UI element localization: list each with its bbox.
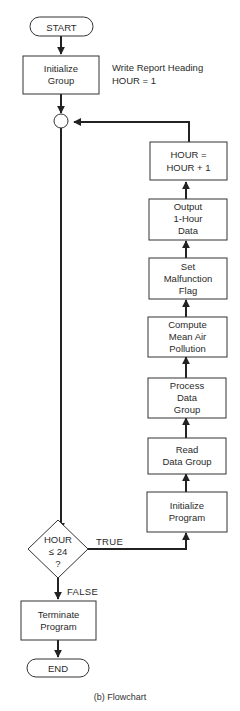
terminate-line-2: Program: [40, 621, 77, 632]
flowchart-canvas: START Initialize Group Write Report Head…: [0, 0, 240, 711]
hour-increment-box: HOUR = HOUR + 1: [150, 142, 227, 180]
edge-hour-connector: [74, 122, 189, 142]
set-flag-line-1: Set: [181, 261, 196, 272]
read-line-2: Data Group: [162, 456, 211, 467]
output-line-3: Data: [178, 225, 199, 236]
output-line-1: Output: [174, 201, 203, 212]
false-label: FALSE: [67, 586, 98, 597]
compute-line-3: Pollution: [169, 343, 205, 354]
terminate-line-1: Terminate: [38, 609, 80, 620]
compute-line-2: Mean Air: [169, 331, 207, 342]
decision-diamond: HOUR ≤ 24 ?: [28, 520, 88, 578]
end-terminal: END: [27, 659, 89, 677]
annotation-line-2: HOUR = 1: [112, 75, 156, 86]
compute-mean-air-pollution-box: Compute Mean Air Pollution: [148, 317, 227, 357]
start-terminal: START: [30, 17, 93, 36]
initialize-program-line-2: Program: [169, 512, 206, 523]
process-line-3: Group: [174, 404, 200, 415]
initialize-program-box: Initialize Program: [147, 492, 227, 532]
process-data-group-box: Process Data Group: [148, 378, 226, 418]
set-flag-line-2: Malfunction: [164, 273, 213, 284]
decision-line-2: ≤ 24: [49, 546, 67, 557]
connector-circle: [54, 114, 68, 128]
terminate-program-box: Terminate Program: [21, 601, 96, 640]
initialize-group-box: Initialize Group: [23, 56, 99, 94]
true-label: TRUE: [96, 536, 123, 547]
set-malfunction-flag-box: Set Malfunction Flag: [149, 258, 227, 299]
hour-increment-line-2: HOUR + 1: [166, 162, 210, 173]
compute-line-1: Compute: [168, 319, 207, 330]
process-line-2: Data: [177, 392, 198, 403]
decision-line-1: HOUR: [44, 534, 72, 545]
output-line-2: 1-Hour: [173, 213, 202, 224]
set-flag-line-3: Flag: [179, 285, 197, 296]
read-data-group-box: Read Data Group: [148, 438, 226, 474]
figure-caption: (b) Flowchart: [94, 692, 147, 702]
output-data-box: Output 1-Hour Data: [149, 199, 227, 240]
end-label: END: [48, 663, 68, 674]
start-label: START: [46, 22, 76, 33]
initialize-program-line-1: Initialize: [170, 500, 204, 511]
read-line-1: Read: [176, 444, 199, 455]
hour-increment-line-1: HOUR =: [170, 149, 207, 160]
initialize-group-line-2: Group: [48, 75, 74, 86]
decision-line-3: ?: [55, 558, 60, 569]
process-line-1: Process: [170, 380, 205, 391]
init-annotation: Write Report Heading HOUR = 1: [112, 62, 203, 86]
initialize-group-line-1: Initialize: [44, 63, 78, 74]
annotation-line-1: Write Report Heading: [112, 62, 203, 73]
